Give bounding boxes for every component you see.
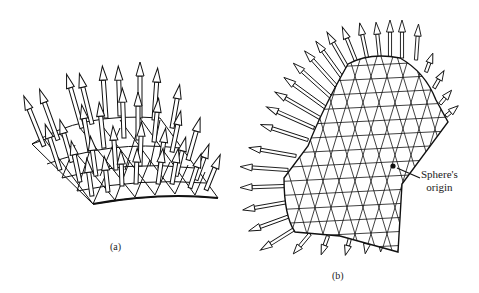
annotation-line-1: Sphere's <box>421 168 458 181</box>
caption-a: (a) <box>110 241 121 252</box>
sphere-mesh-diagram <box>240 0 479 293</box>
sphere-origin-label: Sphere's origin <box>421 168 458 194</box>
panel-b <box>240 0 479 293</box>
figure: (a) <box>0 0 479 293</box>
annotation-line-2: origin <box>421 181 458 194</box>
sphere-origin-dot <box>390 163 395 168</box>
caption-b: (b) <box>332 270 344 281</box>
panel-a: (a) <box>0 0 240 293</box>
